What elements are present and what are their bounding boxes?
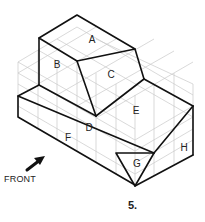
figure-number: 5. — [128, 199, 137, 211]
face-label-e: E — [133, 105, 140, 116]
face-label-f: F — [65, 132, 71, 143]
face-label-g: G — [133, 158, 141, 169]
front-label: FRONT — [4, 174, 36, 184]
face-label-c: C — [107, 69, 114, 80]
front-direction-arrow-icon — [27, 156, 45, 170]
isometric-drawing: A B C D E F G H — [0, 0, 205, 222]
face-label-h: H — [180, 142, 187, 153]
face-label-d: D — [85, 122, 92, 133]
isometric-figure: A B C D E F G H FRONT 5. — [0, 0, 205, 222]
face-label-a: A — [89, 34, 96, 45]
object-edges — [18, 15, 193, 186]
face-label-b: B — [54, 59, 61, 70]
